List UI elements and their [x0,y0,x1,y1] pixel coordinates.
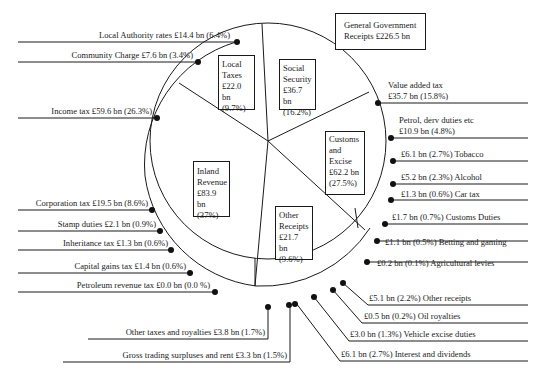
label-oil-royalties: £0.5 bn (0.2%) Oil royalties [364,311,460,322]
segment-other-receipts: Other Receipts £21.7 bn (9.6%) [275,206,313,260]
segment-social-security: Social Security £36.7 bn (16.2%) [279,59,316,110]
label-car-tax: £1.3 bn (0.6%) Car tax [401,189,480,200]
label-community-charge: Community Charge £7.6 bn (3.4%) [71,50,193,61]
label-income-tax: Income tax £59.6 bn (26.3%) [51,106,152,117]
label-interest-dividends: £6.1 bn (2.7%) Interest and dividends [341,349,471,360]
segment-inland-revenue: Inland Revenue £83.9 bn (37%) [193,161,230,217]
label-agricultural-levies: £0.2 bn (0.1%) Agricultural levies [377,258,494,269]
label-stamp-duties: Stamp duties £2.1 bn (0.9%) [58,219,156,230]
label-other-receipts: £5.1 bn (2.2%) Other receipts [369,293,471,304]
title-line-1: General Government [344,20,417,31]
label-gross-trading-surpluses: Gross trading surpluses and rent £3.3 bn… [123,350,287,361]
label-vehicle-excise-duties: £3.0 bn (1.3%) Vehicle excise duties [350,329,476,340]
title-box: General Government Receipts £226.5 bn [335,13,426,50]
label-other-taxes-royalties: Other taxes and royalties £3.8 bn (1.7%) [126,327,265,338]
label-inheritance-tax: Inheritance tax £1.3 bn (0.6%) [63,238,168,249]
title-line-2: Receipts £226.5 bn [344,31,417,42]
segment-customs-excise: Customs and Excise £62.2 bn (27.5%) [325,131,365,195]
label-petrol-derv: Petrol, derv duties etc £10.9 bn (4.8%) [399,115,474,137]
label-capital-gains-tax: Capital gains tax £1.4 bn (0.6%) [75,261,186,272]
label-vat: Value added tax £35.7 bn (15.8%) [388,80,448,102]
label-betting-gaming: £1.1 bn (0.5%) Betting and gaming [385,237,507,248]
label-tobacco: £6.1 bn (2.7%) Tobacco [401,149,484,160]
label-alcohol: £5.2 bn (2.3%) Alcohol [401,172,482,183]
segment-local-taxes: Local Taxes £22.0 bn (9.7%) [218,55,255,110]
label-petroleum-revenue-tax: Petroleum revenue tax £0.0 bn (0.0 %) [77,280,210,291]
label-customs-duties: £1.7 bn (0.7%) Customs Duties [392,212,500,223]
label-corporation-tax: Corporation tax £19.5 bn (8.6%) [36,198,148,209]
label-local-authority-rates: Local Authority rates £14.4 bn (6.4%) [99,30,230,41]
